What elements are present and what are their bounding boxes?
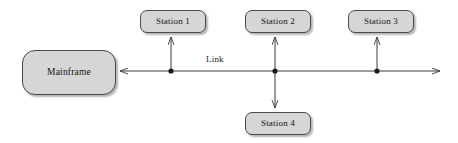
station-1-label: Station 1 [156,17,190,26]
tap-point-3 [374,68,379,73]
mainframe-node: Mainframe [22,50,116,95]
station-2-node: Station 2 [245,10,311,33]
tap-point-2 [272,68,277,73]
network-topology-diagram: Link Mainframe Station 1 Station 2 Stati… [0,0,458,143]
mainframe-label: Mainframe [47,68,91,78]
station-3-node: Station 3 [348,10,414,33]
link-label: Link [204,54,226,64]
station-2-label: Station 2 [261,17,295,26]
station-1-node: Station 1 [140,10,206,33]
station-4-node: Station 4 [245,112,311,135]
tap-point-1 [168,68,173,73]
station-3-label: Station 3 [364,17,398,26]
station-4-label: Station 4 [261,119,295,128]
